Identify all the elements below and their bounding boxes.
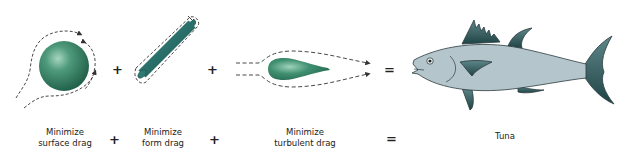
plus-operator-label: +: [209, 133, 220, 146]
plus-operator-label: +: [109, 133, 120, 146]
surface-drag-label: Minimize surface drag: [30, 127, 100, 149]
turbulent-drag-label: Minimize turbulent drag: [265, 127, 345, 149]
tuna-label: Tuna: [485, 131, 525, 142]
label-line: form drag: [133, 138, 193, 149]
label-line: Minimize: [133, 127, 193, 138]
sphere-shape: [16, 31, 97, 108]
equals-operator: =: [384, 62, 395, 77]
label-line: Minimize: [30, 127, 100, 138]
form-drag-label: Minimize form drag: [133, 127, 193, 149]
label-line: Minimize: [265, 127, 345, 138]
label-line: surface drag: [30, 138, 100, 149]
label-line: turbulent drag: [265, 138, 345, 149]
equals-operator-label: =: [386, 132, 397, 145]
cylinder-shape: [135, 16, 199, 83]
plus-operator: +: [207, 62, 218, 77]
tuna-fish-illustration: [412, 20, 614, 110]
teardrop-shape: [236, 51, 368, 87]
plus-operator: +: [112, 62, 123, 77]
